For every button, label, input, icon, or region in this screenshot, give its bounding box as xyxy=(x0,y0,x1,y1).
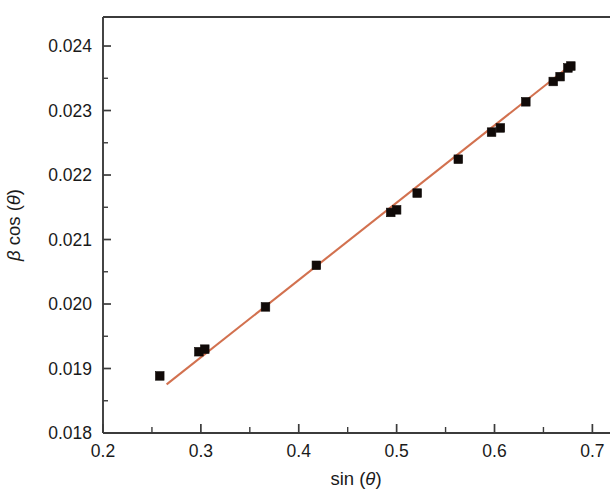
x-tick-label: 0.6 xyxy=(482,441,506,461)
x-tick-label: 0.4 xyxy=(287,441,312,461)
williamson-hall-plot: 0.0180.0190.0200.0210.0220.0230.024 0.20… xyxy=(0,0,610,501)
x-tick-label: 0.7 xyxy=(580,441,604,461)
x-tick-label: 0.2 xyxy=(91,441,115,461)
data-point-marker xyxy=(522,98,531,107)
data-point-marker xyxy=(200,345,209,354)
plot-svg: 0.0180.0190.0200.0210.0220.0230.024 0.20… xyxy=(0,0,610,501)
x-tick-label: 0.5 xyxy=(384,441,408,461)
y-tick-label: 0.019 xyxy=(48,359,92,379)
x-tick-label: 0.3 xyxy=(189,441,213,461)
data-point-marker xyxy=(487,128,496,137)
data-point-marker xyxy=(392,206,401,215)
y-axis-title: β cos (θ) xyxy=(3,189,24,262)
data-point-marker xyxy=(261,303,270,312)
y-tick-label: 0.020 xyxy=(48,294,92,314)
data-point-marker xyxy=(312,261,321,270)
y-tick-label: 0.023 xyxy=(48,101,92,121)
y-tick-label: 0.018 xyxy=(48,423,92,443)
data-point-marker xyxy=(454,155,463,164)
data-point-marker xyxy=(413,189,422,198)
y-tick-label: 0.024 xyxy=(48,36,92,56)
data-point-marker xyxy=(155,372,164,381)
data-point-marker xyxy=(496,124,505,133)
data-point-marker xyxy=(556,72,565,81)
y-tick-label: 0.021 xyxy=(48,230,92,250)
data-point-marker xyxy=(567,62,576,71)
y-tick-label: 0.022 xyxy=(48,165,92,185)
x-axis-title: sin (θ) xyxy=(330,468,381,489)
